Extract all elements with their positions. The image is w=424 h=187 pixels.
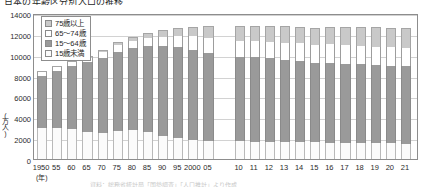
bar-segment-w1564 xyxy=(371,65,381,143)
bar-15 xyxy=(310,28,320,159)
x-axis-tick-label: 21 xyxy=(401,163,409,172)
bar-70 xyxy=(98,50,108,159)
bar-segment-s6574 xyxy=(158,37,168,46)
x-axis-tick-label: 75 xyxy=(113,163,121,172)
bar-segment-w1564 xyxy=(82,62,92,132)
bar-segment-o75 xyxy=(401,28,411,47)
bar-segment-w1564 xyxy=(37,76,47,128)
x-axis-tick-label: 20 xyxy=(386,163,394,172)
bar-segment-o75 xyxy=(250,26,260,41)
bar-segment-u15 xyxy=(67,129,77,159)
y-axis-tick-label: 4000 xyxy=(14,115,31,124)
legend-label: 75歳以上 xyxy=(55,20,84,28)
bar-55 xyxy=(52,66,62,159)
x-axis-tick-label: 12 xyxy=(265,163,273,172)
x-axis-tick-label: 60 xyxy=(67,163,75,172)
bar-group xyxy=(34,15,417,159)
bar-segment-u15 xyxy=(82,132,92,159)
bar-segment-w1564 xyxy=(386,66,396,144)
bar-segment-u15 xyxy=(356,143,366,159)
bar-segment-u15 xyxy=(128,130,138,159)
bar-segment-o75 xyxy=(295,27,305,44)
y-axis-tick-label: 8000 xyxy=(14,73,31,82)
legend: 75歳以上65〜74歳15〜64歳15歳未満 xyxy=(41,16,91,61)
legend-swatch-o75 xyxy=(45,20,52,27)
bar-segment-w1564 xyxy=(113,52,123,131)
x-axis-tick-label: 17 xyxy=(340,163,348,172)
bar-10 xyxy=(235,26,245,159)
bar-segment-o75 xyxy=(325,27,335,45)
legend-label: 65〜74歳 xyxy=(55,30,86,38)
bar-segment-w1564 xyxy=(67,66,77,129)
bar-20 xyxy=(386,28,396,159)
y-axis-tick-label: 6000 xyxy=(14,94,31,103)
bar-segment-w1564 xyxy=(203,53,213,141)
bar-segment-s6574 xyxy=(386,47,396,65)
bar-segment-u15 xyxy=(280,142,290,159)
bar-95 xyxy=(173,28,183,159)
x-axis-tick-label: 15 xyxy=(310,163,318,172)
source-note: 資料：総務省統計局「国勢調査」「人口推計」より作成 xyxy=(90,180,237,187)
bar-segment-s6574 xyxy=(250,41,260,57)
x-axis-tick-label: 55 xyxy=(52,163,60,172)
x-axis-tick-label: 90 xyxy=(158,163,166,172)
bar-segment-o75 xyxy=(340,27,350,45)
bar-60 xyxy=(67,61,77,159)
bar-17 xyxy=(340,27,350,159)
bar-segment-u15 xyxy=(310,142,320,159)
bar-segment-w1564 xyxy=(265,58,275,142)
legend-item-u15: 15歳未満 xyxy=(45,49,86,58)
x-axis-tick-label: 10 xyxy=(234,163,242,172)
bar-segment-w1564 xyxy=(52,71,62,128)
bar-segment-o75 xyxy=(280,26,290,42)
bar-12 xyxy=(265,26,275,159)
legend-swatch-s6574 xyxy=(45,30,52,37)
legend-item-w1564: 15〜64歳 xyxy=(45,39,86,48)
y-axis-tick-label: 12000 xyxy=(10,31,31,40)
bar-21 xyxy=(401,28,411,159)
x-axis-tick-label: 18 xyxy=(355,163,363,172)
bar-segment-u15 xyxy=(340,143,350,159)
plot-area: 14000120001000080006000400020000 xyxy=(33,14,418,160)
bar-segment-w1564 xyxy=(250,57,260,142)
bar-segment-w1564 xyxy=(310,63,320,143)
legend-label: 15〜64歳 xyxy=(55,40,86,48)
x-axis-tick-label: 05 xyxy=(203,163,211,172)
bar-65 xyxy=(82,56,92,159)
bar-segment-s6574 xyxy=(265,42,275,58)
legend-swatch-u15 xyxy=(45,50,52,57)
bar-segment-s6574 xyxy=(235,41,245,57)
bar-1950 xyxy=(37,71,47,159)
bar-segment-u15 xyxy=(188,140,198,159)
bar-segment-u15 xyxy=(265,142,275,159)
x-axis-tick-label: 70 xyxy=(97,163,105,172)
bar-segment-w1564 xyxy=(143,46,153,132)
bar-18 xyxy=(356,27,366,159)
y-axis-tick-label: 10000 xyxy=(10,52,31,61)
bar-05 xyxy=(203,26,213,159)
bar-segment-s6574 xyxy=(188,36,198,50)
legend-swatch-w1564 xyxy=(45,40,52,47)
bar-segment-w1564 xyxy=(173,47,183,138)
y-axis-tick-label: 14000 xyxy=(10,11,31,20)
bar-segment-u15 xyxy=(203,141,213,159)
x-axis-tick-label: 65 xyxy=(82,163,90,172)
bar-segment-o75 xyxy=(235,26,245,41)
bar-segment-w1564 xyxy=(295,61,305,142)
bar-19 xyxy=(371,27,381,159)
bar-segment-s6574 xyxy=(401,48,411,66)
bar-14 xyxy=(295,27,305,159)
y-axis-unit-label: (万人) xyxy=(2,112,9,136)
bar-segment-s6574 xyxy=(310,45,320,63)
bar-13 xyxy=(280,26,290,159)
bar-segment-s6574 xyxy=(356,46,366,64)
bar-segment-u15 xyxy=(235,141,245,159)
bar-segment-o75 xyxy=(386,28,396,48)
bar-segment-o75 xyxy=(188,27,198,36)
x-axis-tick-label: 11 xyxy=(250,163,258,172)
bar-segment-s6574 xyxy=(295,43,305,61)
bar-segment-o75 xyxy=(173,28,183,35)
bar-segment-w1564 xyxy=(340,64,350,143)
bar-segment-w1564 xyxy=(280,60,290,142)
bar-segment-u15 xyxy=(143,132,153,159)
